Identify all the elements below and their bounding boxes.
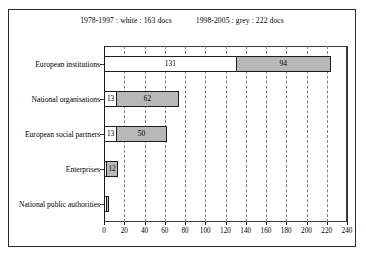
x-tick-label: 120 xyxy=(220,227,231,235)
x-tick-mark xyxy=(347,222,348,225)
x-tick-mark xyxy=(226,222,227,225)
legend-entry-grey: 1998-2005 : grey : 222 docs xyxy=(196,16,284,25)
x-tick-label: 140 xyxy=(240,227,251,235)
category-label: Enterprises xyxy=(66,165,100,174)
x-tick-mark xyxy=(205,222,206,225)
stacked-bar[interactable]: 1350 xyxy=(104,126,167,142)
x-tick-mark xyxy=(327,222,328,225)
bar-segment-grey[interactable]: 12 xyxy=(106,161,118,177)
chart-figure: 1978-1997 : white : 163 docs 1998-2005 :… xyxy=(8,9,356,247)
x-tick-label: 240 xyxy=(342,227,353,235)
bar-value-label: 13 xyxy=(107,130,114,137)
x-tick-mark xyxy=(246,222,247,225)
x-tick-mark xyxy=(286,222,287,225)
bar-segment-grey[interactable]: 62 xyxy=(116,91,179,107)
x-tick-mark xyxy=(145,222,146,225)
x-tick-mark xyxy=(266,222,267,225)
stacked-bar[interactable]: 13194 xyxy=(104,56,331,72)
bar-segment-grey[interactable]: 50 xyxy=(116,126,167,142)
bar-value-label: 13 xyxy=(107,95,114,102)
stacked-bar[interactable]: 12 xyxy=(104,161,118,177)
category-label: European institutions xyxy=(35,59,100,68)
stacked-bar[interactable]: 1362 xyxy=(104,91,179,107)
category-label: National public authorities xyxy=(19,200,100,209)
plot-area: 020406080100120140160180200220240 Europe… xyxy=(104,46,347,222)
x-tick-mark xyxy=(124,222,125,225)
x-tick-mark xyxy=(104,222,105,225)
bar-value-label: 131 xyxy=(165,60,176,67)
bar-value-label: 50 xyxy=(138,130,145,137)
bar-row: National organisations1362 xyxy=(104,81,347,116)
x-tick-mark xyxy=(185,222,186,225)
category-label: National organisations xyxy=(32,94,100,103)
bar-segment-grey[interactable] xyxy=(106,196,109,212)
bar-value-label: 94 xyxy=(280,60,287,67)
bar-value-label: 62 xyxy=(144,95,151,102)
x-tick-mark xyxy=(165,222,166,225)
stacked-bar[interactable] xyxy=(104,196,109,212)
x-tick-label: 60 xyxy=(161,227,168,235)
x-tick-mark xyxy=(307,222,308,225)
x-tick-label: 220 xyxy=(321,227,332,235)
bar-segment-white[interactable]: 131 xyxy=(104,56,237,72)
bar-row: European social partners1350 xyxy=(104,116,347,151)
gridline xyxy=(347,46,348,222)
legend-entry-white: 1978-1997 : white : 163 docs xyxy=(80,16,172,25)
x-tick-label: 20 xyxy=(121,227,128,235)
x-tick-label: 200 xyxy=(301,227,312,235)
bar-row: Enterprises12 xyxy=(104,152,347,187)
x-tick-label: 180 xyxy=(281,227,292,235)
x-tick-label: 160 xyxy=(261,227,272,235)
x-tick-label: 80 xyxy=(181,227,188,235)
x-tick-label: 100 xyxy=(200,227,211,235)
category-label: European social partners xyxy=(25,129,100,138)
x-tick-label: 0 xyxy=(102,227,106,235)
bar-row: National public authorities xyxy=(104,187,347,222)
chart-legend: 1978-1997 : white : 163 docs 1998-2005 :… xyxy=(9,16,355,25)
bar-row: European institutions13194 xyxy=(104,46,347,81)
bar-value-label: 12 xyxy=(108,165,115,172)
x-tick-label: 40 xyxy=(141,227,148,235)
bar-segment-grey[interactable]: 94 xyxy=(236,56,331,72)
